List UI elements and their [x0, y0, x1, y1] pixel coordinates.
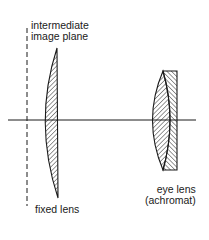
fixed-lens-label: fixed lens — [35, 204, 79, 215]
intermediate-label-line2: image plane — [31, 31, 89, 42]
intermediate-image-plane-label: intermediate image plane — [31, 20, 89, 42]
eye-lens-label: eye lens (achromat) — [145, 184, 196, 206]
eye-lens-label-line2: (achromat) — [145, 195, 196, 206]
fixed-lens-shape — [45, 48, 58, 198]
